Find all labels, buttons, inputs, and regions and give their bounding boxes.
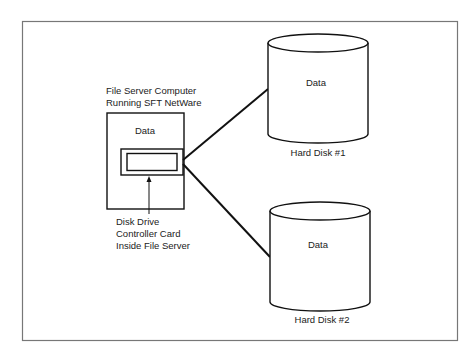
server-title-line2: Running SFT NetWare <box>106 97 202 108</box>
card-label-line3: Inside File Server <box>116 240 190 251</box>
server-data-label: Data <box>135 125 156 136</box>
disk2-data-label: Data <box>308 239 329 250</box>
hard-disk-1: Data Hard Disk #2 Hard Disk #1 <box>268 34 368 158</box>
hard-disk-2: Data Hard Disk #2 <box>270 202 370 325</box>
server-title-line1: File Server Computer <box>106 85 196 96</box>
card-label-line1: Disk Drive <box>116 216 159 227</box>
disk1-name: Hard Disk #1 <box>291 147 346 158</box>
disk1-data-label: Data <box>306 77 327 88</box>
outer-frame <box>23 22 458 341</box>
controller-card-inner <box>127 154 177 171</box>
card-label-line2: Controller Card <box>116 228 180 239</box>
disk2-name: Hard Disk #2 <box>295 314 350 325</box>
sft-netware-diagram: File Server Computer Running SFT NetWare… <box>0 0 475 355</box>
